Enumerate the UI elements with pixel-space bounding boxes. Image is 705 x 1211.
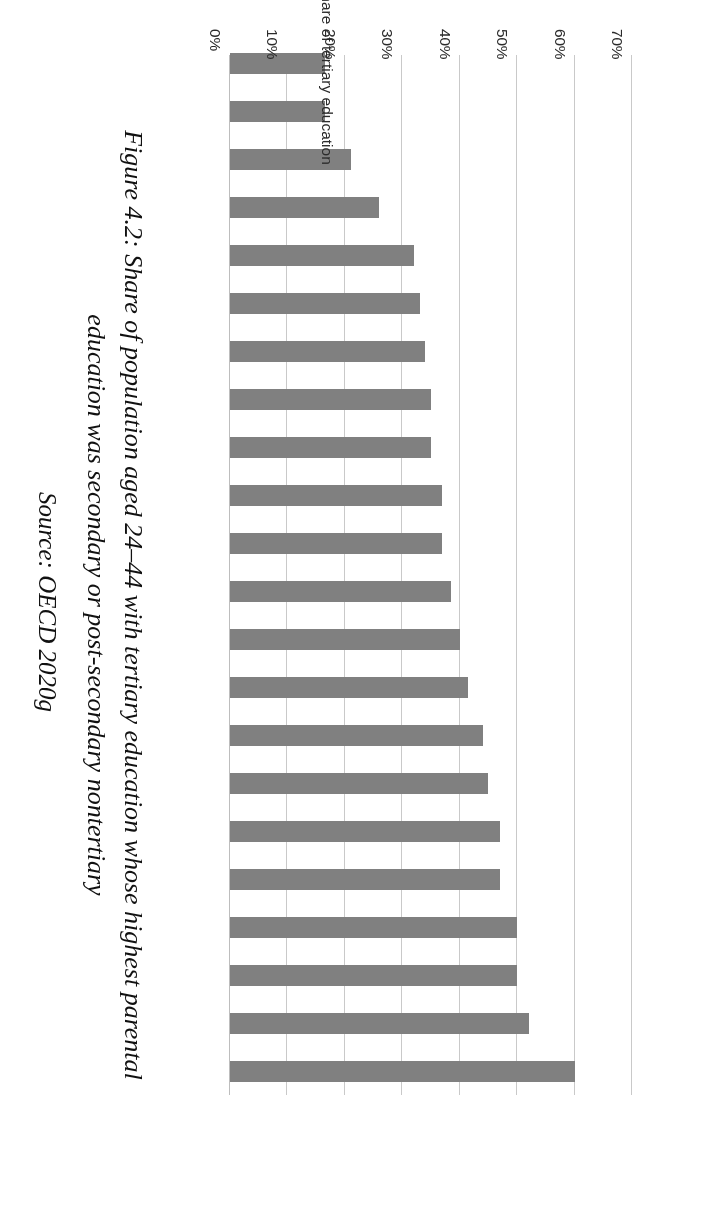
bar xyxy=(230,485,442,506)
bar-row xyxy=(230,471,632,519)
bar xyxy=(230,629,460,650)
bar-row xyxy=(230,999,632,1047)
bar-row xyxy=(230,759,632,807)
bar-row xyxy=(230,327,632,375)
tick-label: 60% xyxy=(551,29,569,59)
tick-label: 0% xyxy=(206,29,224,51)
bar-row xyxy=(230,951,632,999)
bar xyxy=(230,725,483,746)
bar-row xyxy=(230,807,632,855)
bar-row xyxy=(230,567,632,615)
bar xyxy=(230,389,431,410)
tick-label: 40% xyxy=(436,29,454,59)
bar xyxy=(230,869,500,890)
bar xyxy=(230,197,379,218)
bar xyxy=(230,293,420,314)
bar xyxy=(230,581,451,602)
figure-caption-block: Figure 4.2: Share of population aged 24–… xyxy=(0,0,185,1211)
bar-row xyxy=(230,375,632,423)
bar-row xyxy=(230,711,632,759)
bar xyxy=(230,1061,575,1082)
figure-page: 0%10%20%30%40%50%60%70% Share of tertiar… xyxy=(0,0,705,1211)
bar-row xyxy=(230,135,632,183)
bar xyxy=(230,245,414,266)
bar xyxy=(230,677,468,698)
bar xyxy=(230,101,325,122)
tick-label: 30% xyxy=(378,29,396,59)
bar-row xyxy=(230,519,632,567)
value-axis-title: Share of tertiary education xyxy=(318,0,336,165)
bar xyxy=(230,773,488,794)
bar xyxy=(230,1013,529,1034)
bar xyxy=(230,341,425,362)
figure-caption: Figure 4.2: Share of population aged 24–… xyxy=(78,101,152,1111)
bar xyxy=(230,917,517,938)
bar xyxy=(230,533,442,554)
tick-label: 50% xyxy=(493,29,511,59)
bar-row xyxy=(230,1047,632,1095)
bar xyxy=(230,821,500,842)
tick-label: 10% xyxy=(263,29,281,59)
plot-area xyxy=(230,55,632,1095)
tick-label: 70% xyxy=(608,29,626,59)
bar-row xyxy=(230,903,632,951)
bar-row xyxy=(230,39,632,87)
bar-row xyxy=(230,663,632,711)
figure-source: Source: OECD 2020g xyxy=(34,493,62,719)
bar-row xyxy=(230,615,632,663)
bar-row xyxy=(230,279,632,327)
bar-row xyxy=(230,231,632,279)
bar xyxy=(230,437,431,458)
bar xyxy=(230,965,517,986)
bar-row xyxy=(230,87,632,135)
bar-row xyxy=(230,183,632,231)
bar-row xyxy=(230,855,632,903)
bar-row xyxy=(230,423,632,471)
bar-chart: 0%10%20%30%40%50%60%70% Share of tertiar… xyxy=(185,0,705,1211)
